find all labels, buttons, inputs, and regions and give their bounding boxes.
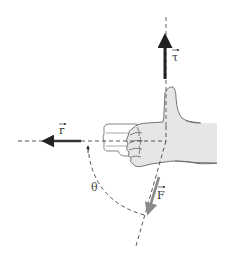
torque-label: τ: [172, 50, 179, 64]
wrist-fill: [195, 123, 217, 163]
position-label-text: r: [59, 124, 65, 137]
torque-right-hand-rule-diagram: τ r F θ: [0, 0, 234, 263]
angle-theta-label: θ: [91, 181, 98, 194]
force-label-text: F: [157, 189, 165, 202]
position-label: r: [59, 124, 66, 137]
torque-label-text: τ: [172, 51, 178, 64]
right-hand-illustration: [103, 87, 217, 167]
force-label: F: [157, 187, 165, 202]
